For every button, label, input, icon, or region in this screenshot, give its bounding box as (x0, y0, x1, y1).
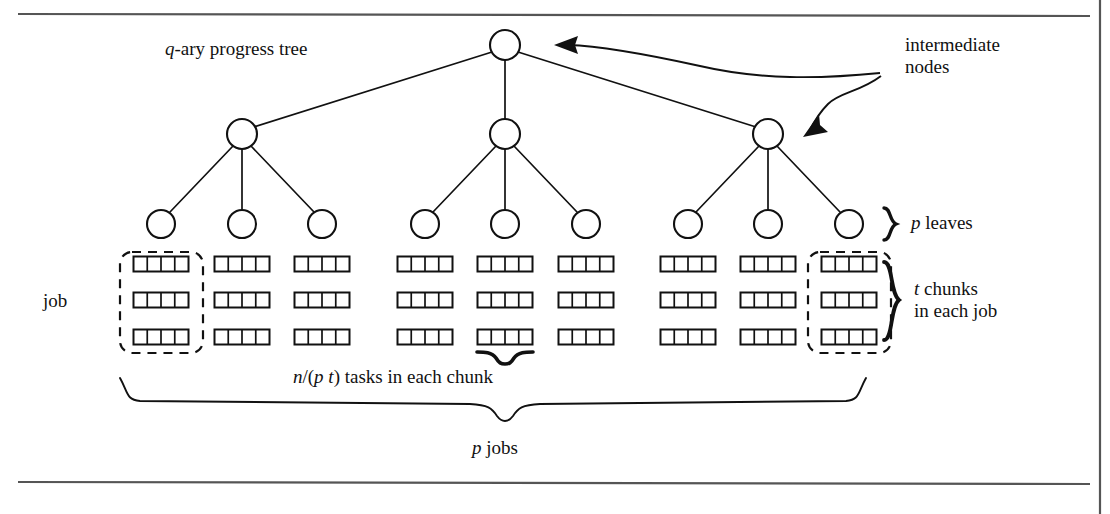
tree-title-rest: -ary progress tree (175, 38, 308, 59)
brace-tasks-in-chunk (477, 352, 533, 364)
intermediate-node-3[interactable] (753, 119, 783, 149)
t-chunks-line2: in each job (914, 300, 997, 322)
edge-int1-leaf1 (170, 146, 233, 212)
intermediate-node-1[interactable] (227, 119, 257, 149)
p-jobs-rest: jobs (482, 437, 518, 458)
edge-int2-leaf4 (433, 146, 496, 212)
edge-int3-leaf9 (777, 146, 840, 212)
root-node[interactable] (490, 30, 520, 60)
job-group[interactable] (215, 257, 270, 345)
arrow-head-intermediate (803, 114, 828, 137)
brace-p-jobs (120, 378, 866, 421)
tasks-rest: ) tasks in each chunk (334, 366, 493, 387)
bottom-rule (18, 482, 1090, 484)
job-group[interactable] (741, 257, 796, 345)
brace-p-leaves (884, 208, 896, 240)
t-chunks-rest: chunks (919, 278, 978, 299)
leaf-node-8[interactable] (754, 210, 782, 238)
leaf-node-5[interactable] (491, 210, 519, 238)
intermediate-nodes-line1: intermediate (905, 34, 1000, 56)
job-group[interactable] (559, 257, 614, 345)
t-chunks-label: t chunksin each job (914, 278, 997, 323)
intermediate-nodes-label: intermediatenodes (905, 34, 1000, 79)
edge-int3-leaf7 (696, 146, 759, 212)
job-label-text: job (43, 290, 67, 311)
tasks-mid: /( (303, 366, 315, 387)
leaf-node-7[interactable] (674, 210, 702, 238)
p-leaves-rest: leaves (921, 212, 973, 233)
tasks-n-symbol: n (293, 366, 303, 387)
callout-arrows (568, 45, 881, 134)
p-jobs-symbol: p (472, 437, 482, 458)
edge-root-int3 (518, 52, 756, 127)
p-leaves-label: p leaves (911, 212, 973, 234)
leaf-node-9[interactable] (835, 210, 863, 238)
top-rule (18, 14, 1090, 16)
arrow-heads (554, 36, 828, 137)
leaf-node-2[interactable] (228, 210, 256, 238)
tree-title-symbol: q (165, 38, 175, 59)
leaf-node-4[interactable] (411, 210, 439, 238)
intermediate-node-2[interactable] (490, 119, 520, 149)
edge-int2-leaf6 (514, 146, 577, 212)
job-group[interactable] (478, 257, 533, 345)
job-group[interactable] (661, 257, 716, 345)
arrow-line-to-root (568, 45, 880, 77)
jobs-layer (134, 257, 877, 345)
intermediate-nodes-line2: nodes (905, 56, 1000, 78)
p-jobs-label: p jobs (472, 437, 518, 459)
braces (120, 208, 899, 421)
tree-title-label: q-ary progress tree (165, 38, 307, 60)
edge-root-int1 (254, 52, 492, 127)
p-leaves-symbol: p (911, 212, 921, 233)
tasks-in-chunk-label: n/(p t) tasks in each chunk (293, 366, 493, 388)
job-label: job (43, 290, 67, 312)
t-chunks-line1: t chunks (914, 278, 997, 300)
edge-int1-leaf3 (251, 146, 314, 212)
job-group[interactable] (398, 257, 453, 345)
leaf-node-6[interactable] (572, 210, 600, 238)
figure-container: q-ary progress tree intermediatenodes p … (0, 0, 1110, 514)
job-group[interactable] (134, 257, 189, 345)
leaf-node-3[interactable] (308, 210, 336, 238)
arrow-head-root (554, 36, 578, 54)
job-group[interactable] (822, 257, 877, 345)
tasks-p-symbol: p (314, 366, 324, 387)
job-group[interactable] (295, 257, 350, 345)
leaf-node-1[interactable] (147, 210, 175, 238)
